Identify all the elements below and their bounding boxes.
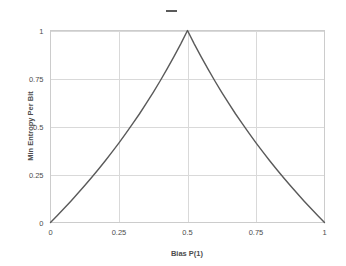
grid-lines xyxy=(51,31,325,223)
y-tick-label: 1 xyxy=(39,27,43,36)
x-tick-label: 0.5 xyxy=(182,228,192,237)
x-tick-label: 0.75 xyxy=(249,228,264,237)
plot-frame xyxy=(51,31,325,223)
chart-figure: 00.250.50.751 00.250.50.751 Bias P(1) Mi… xyxy=(0,0,346,266)
y-tick-label: 0 xyxy=(39,219,43,228)
x-tick-label: 0.25 xyxy=(112,228,127,237)
x-axis-tick-labels: 00.250.50.751 xyxy=(48,228,326,237)
y-tick-label: 0.75 xyxy=(29,75,44,84)
x-axis-title: Bias P(1) xyxy=(171,249,204,258)
x-tick-label: 0 xyxy=(48,228,52,237)
y-tick-label: 0.25 xyxy=(29,171,44,180)
y-axis-title: Min Entropy Per Bit xyxy=(26,91,35,161)
chart-plot-area: 00.250.50.751 00.250.50.751 Bias P(1) Mi… xyxy=(0,0,346,266)
x-tick-label: 1 xyxy=(322,228,326,237)
series-line-min-entropy xyxy=(51,31,325,223)
